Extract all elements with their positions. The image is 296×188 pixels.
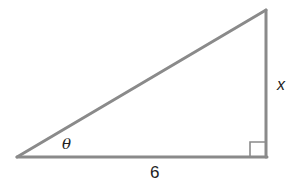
triangle-diagram [0,0,296,188]
angle-theta-label: θ [62,137,71,152]
height-x-label: x [277,77,285,93]
hypotenuse [17,10,266,157]
base-length-label: 6 [150,164,159,181]
right-angle-marker [250,142,266,157]
